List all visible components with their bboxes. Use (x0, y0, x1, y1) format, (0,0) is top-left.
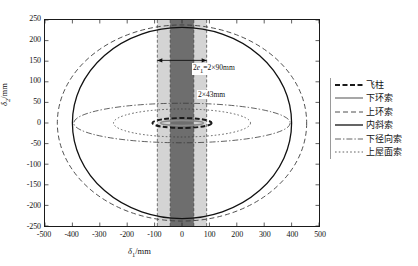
legend-label: 下环索 (366, 93, 393, 103)
legend-label: 飞柱 (366, 80, 384, 90)
x-tick-label: 500 (300, 231, 340, 239)
curves-canvas (45, 20, 319, 226)
y-tick-label: 150 (1, 57, 41, 65)
chart-figure: 250200150100500-50-100-150-200-250 δ2/mm… (0, 0, 418, 266)
y-tick-label: -250 (1, 223, 41, 231)
y-tick-label: -100 (1, 161, 41, 169)
plot-area: 2e1=2×90mm 2×43mm (44, 19, 320, 227)
legend-swatch-icon (335, 147, 363, 157)
chart-legend: 飞柱下环索上环索内斜索下径向索上屋面索 (330, 78, 416, 159)
tolerance-bands (157, 20, 206, 226)
legend-item[interactable]: 下径向索 (335, 132, 416, 146)
legend-item[interactable]: 内斜索 (335, 119, 416, 133)
outer-band-annotation: 2e1=2×90mm (192, 63, 236, 75)
x-axis-title: δ1/mm (128, 246, 151, 258)
y-tick-label: -150 (1, 181, 41, 189)
inner-band-annotation: 2×43mm (197, 90, 226, 99)
y-tick-label: -50 (1, 140, 41, 148)
legend-item[interactable]: 飞柱 (335, 78, 416, 92)
legend-swatch-icon (335, 107, 363, 117)
y-tick-label: 200 (1, 36, 41, 44)
y-tick-label: -200 (1, 202, 41, 210)
legend-item[interactable]: 上屋面索 (335, 146, 416, 160)
x-axis-unit: /mm (135, 246, 151, 256)
y-axis-unit: /mm (0, 83, 9, 99)
inner-tolerance-band (170, 20, 194, 226)
legend-swatch-icon (335, 120, 363, 130)
legend-swatch-icon (335, 93, 363, 103)
legend-label: 下径向索 (366, 134, 402, 144)
legend-item[interactable]: 下环索 (335, 92, 416, 106)
legend-swatch-icon (335, 80, 363, 90)
legend-swatch-icon (335, 134, 363, 144)
x-axis-tick-labels: -500-400-300-200-1000100200300400500 (0, 231, 418, 243)
y-axis-subscript: 2 (4, 99, 11, 102)
y-axis-tick-labels: 250200150100500-50-100-150-200-250 (0, 0, 41, 266)
legend-label: 内斜索 (366, 120, 393, 130)
y-axis-title: δ2/mm (0, 83, 11, 106)
y-axis-symbol: δ (0, 102, 9, 106)
y-tick-label: 0 (1, 119, 41, 127)
legend-label: 上屋面索 (366, 147, 402, 157)
y-tick-label: 250 (1, 15, 41, 23)
legend-item[interactable]: 上环索 (335, 105, 416, 119)
outer-annot-rest: =2×90mm (203, 63, 234, 72)
legend-label: 上环索 (366, 107, 393, 117)
